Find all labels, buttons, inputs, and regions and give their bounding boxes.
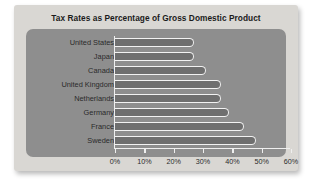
x-axis-line bbox=[114, 148, 290, 149]
bar bbox=[115, 108, 229, 117]
bar-rows: United StatesJapanCanadaUnited KingdomNe… bbox=[26, 36, 286, 148]
category-label: United States bbox=[70, 37, 114, 49]
bar-row: United States bbox=[26, 36, 286, 50]
x-tick bbox=[262, 149, 263, 153]
x-tick-label: 0% bbox=[110, 157, 120, 166]
x-tick bbox=[203, 149, 204, 153]
x-tick bbox=[115, 149, 116, 153]
x-tick-label: 60% bbox=[284, 157, 298, 166]
bar bbox=[115, 122, 244, 131]
category-label: Japan bbox=[94, 51, 114, 63]
x-tick-label: 50% bbox=[254, 157, 268, 166]
x-tick bbox=[291, 149, 292, 153]
x-tick bbox=[144, 149, 145, 153]
x-tick-label: 20% bbox=[166, 157, 180, 166]
bar-row: France bbox=[26, 120, 286, 134]
bar-row: Netherlands bbox=[26, 92, 286, 106]
category-label: United Kingdom bbox=[61, 79, 114, 91]
bar bbox=[115, 80, 221, 89]
x-tick-label: 10% bbox=[137, 157, 151, 166]
bar-row: Sweden bbox=[26, 134, 286, 148]
x-axis-tick-labels: 0%10%20%30%40%50%60% bbox=[26, 157, 286, 171]
bar bbox=[115, 94, 221, 103]
bar-row: Japan bbox=[26, 50, 286, 64]
plot-area: United StatesJapanCanadaUnited KingdomNe… bbox=[26, 29, 286, 157]
category-label: Germany bbox=[84, 107, 114, 119]
category-label: Sweden bbox=[87, 135, 114, 147]
x-tick-label: 30% bbox=[196, 157, 210, 166]
bar-row: Canada bbox=[26, 64, 286, 78]
y-axis-line bbox=[114, 36, 115, 148]
category-label: Canada bbox=[88, 65, 114, 77]
bar bbox=[115, 136, 256, 145]
bar-row: Germany bbox=[26, 106, 286, 120]
chart-card: Tax Rates as Percentage of Gross Domesti… bbox=[14, 5, 298, 171]
bar bbox=[115, 66, 206, 75]
bar bbox=[115, 38, 194, 47]
category-label: France bbox=[91, 121, 114, 133]
bar bbox=[115, 52, 194, 61]
bar-row: United Kingdom bbox=[26, 78, 286, 92]
x-tick bbox=[232, 149, 233, 153]
plot-panel: United StatesJapanCanadaUnited KingdomNe… bbox=[26, 29, 286, 157]
category-label: Netherlands bbox=[74, 93, 114, 105]
x-tick-label: 40% bbox=[225, 157, 239, 166]
chart-figure: Tax Rates as Percentage of Gross Domesti… bbox=[0, 0, 315, 188]
x-tick bbox=[174, 149, 175, 153]
chart-title: Tax Rates as Percentage of Gross Domesti… bbox=[14, 13, 298, 23]
